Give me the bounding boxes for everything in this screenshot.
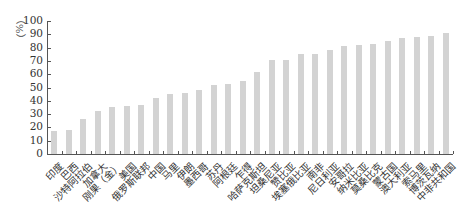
bar (254, 72, 260, 154)
x-tick (308, 151, 309, 154)
bar (153, 98, 159, 154)
bar (283, 60, 289, 154)
x-tick (294, 151, 295, 154)
y-tick-label: 80 (21, 41, 43, 53)
x-tick (62, 151, 63, 154)
bar (167, 94, 173, 154)
x-tick (453, 151, 454, 154)
bar (312, 54, 318, 154)
x-axis (47, 154, 453, 155)
y-tick (47, 21, 51, 22)
y-tick-label: 40 (21, 94, 43, 106)
x-tick (410, 151, 411, 154)
bar (385, 41, 391, 154)
y-tick (47, 114, 51, 115)
x-tick (149, 151, 150, 154)
x-tick (76, 151, 77, 154)
y-tick-label: 70 (21, 54, 43, 66)
y-tick (47, 154, 51, 155)
x-tick (279, 151, 280, 154)
x-tick (352, 151, 353, 154)
x-tick (395, 151, 396, 154)
bar (356, 45, 362, 154)
x-tick (337, 151, 338, 154)
y-tick (47, 127, 51, 128)
x-tick (221, 151, 222, 154)
x-tick (120, 151, 121, 154)
bar (327, 50, 333, 154)
bar (240, 81, 246, 154)
bar (443, 33, 449, 154)
x-tick (265, 151, 266, 154)
bar (124, 106, 130, 154)
y-tick (47, 61, 51, 62)
y-tick (47, 48, 51, 49)
x-tick (424, 151, 425, 154)
y-tick (47, 74, 51, 75)
x-tick (381, 151, 382, 154)
bar (66, 130, 72, 154)
x-tick (178, 151, 179, 154)
x-tick (91, 151, 92, 154)
bar (80, 119, 86, 154)
y-tick-label: 50 (21, 81, 43, 93)
bar (341, 46, 347, 154)
y-tick (47, 88, 51, 89)
y-tick (47, 34, 51, 35)
bar (211, 85, 217, 154)
bar (414, 37, 420, 154)
bar-chart: （%） 0102030405060708090100 印度巴西沙特阿拉伯加拿大刚… (0, 0, 472, 209)
y-tick-label: 20 (21, 120, 43, 132)
y-tick-label: 90 (21, 27, 43, 39)
x-tick (323, 151, 324, 154)
y-tick-label: 30 (21, 107, 43, 119)
x-tick (250, 151, 251, 154)
y-tick-label: 10 (21, 134, 43, 146)
x-tick (207, 151, 208, 154)
bar (269, 60, 275, 154)
x-tick (366, 151, 367, 154)
x-tick (163, 151, 164, 154)
bar (95, 111, 101, 154)
y-tick-label: 60 (21, 67, 43, 79)
bar (51, 131, 57, 154)
bar (428, 36, 434, 154)
bar (298, 54, 304, 154)
bar (138, 105, 144, 154)
x-tick (236, 151, 237, 154)
bar (225, 84, 231, 154)
bar (182, 93, 188, 154)
x-tick (134, 151, 135, 154)
bar (399, 38, 405, 154)
y-tick-label: 0 (21, 147, 43, 159)
bar (196, 90, 202, 154)
bar (109, 107, 115, 154)
x-tick (439, 151, 440, 154)
bar (370, 44, 376, 154)
y-tick-label: 100 (21, 14, 43, 26)
x-tick (105, 151, 106, 154)
x-tick (192, 151, 193, 154)
y-tick (47, 101, 51, 102)
